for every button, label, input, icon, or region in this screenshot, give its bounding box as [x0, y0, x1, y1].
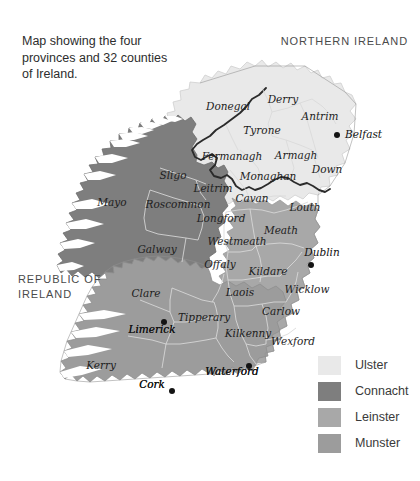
county-label: Meath [263, 224, 298, 236]
county-label: Carlow [262, 305, 300, 317]
county-label: Derry [267, 93, 300, 105]
map-caption: Map showing the four provinces and 32 co… [22, 33, 172, 83]
city-label: Limerick [127, 323, 175, 335]
legend-label: Leinster [355, 410, 399, 424]
province-legend: UlsterConnachtLeinsterMunster [318, 352, 409, 456]
legend-label: Ulster [355, 358, 388, 372]
county-label: Sligo [160, 169, 187, 181]
county-label: Roscommon [145, 198, 211, 210]
county-label: Armagh [274, 149, 317, 161]
county-label: Fermanagh [201, 150, 263, 162]
county-label: Monaghan [239, 170, 297, 182]
county-label: Galway [137, 243, 177, 255]
county-label: Tipperary [178, 311, 231, 323]
republic-title-line1: REPUBLIC OF [18, 272, 101, 287]
city-label: Cork [139, 378, 165, 390]
city-label: Dublin [303, 246, 340, 258]
county-label: Laois [225, 286, 255, 298]
legend-item: Ulster [318, 352, 409, 378]
legend-label: Connacht [355, 384, 409, 398]
county-label: Kerry [85, 359, 117, 371]
legend-swatch [318, 434, 341, 453]
county-label: Wicklow [285, 283, 330, 295]
legend-swatch [318, 356, 341, 375]
county-label: Offaly [204, 258, 237, 270]
county-label: Louth [288, 201, 320, 213]
county-label: Kildare [248, 265, 288, 277]
northern-ireland-title: NORTHERN IRELAND [281, 34, 408, 49]
county-label: Antrim [301, 110, 339, 122]
county-label: Wexford [271, 335, 315, 347]
ireland-provinces-map: DonegalDerryTyroneAntrimFermanaghArmaghD… [0, 0, 420, 481]
county-label: Donegal [205, 100, 250, 112]
republic-title-line2: IRELAND [18, 287, 101, 302]
legend-label: Munster [355, 436, 400, 450]
city-label: Waterford [205, 365, 259, 377]
legend-swatch [318, 408, 341, 427]
city-dot [308, 262, 314, 268]
city-dot [334, 132, 340, 138]
county-label: Kilkenny [224, 327, 273, 339]
county-label: Tyrone [243, 124, 280, 136]
republic-of-ireland-title: REPUBLIC OF IRELAND [18, 272, 101, 302]
county-label: Down [311, 163, 343, 175]
city-label: Belfast [344, 128, 383, 140]
legend-item: Leinster [318, 404, 409, 430]
county-label: Cavan [235, 192, 268, 204]
county-label: Leitrim [192, 182, 232, 194]
county-label: Westmeath [207, 235, 266, 247]
county-label: Mayo [96, 196, 126, 208]
legend-item: Connacht [318, 378, 409, 404]
legend-swatch [318, 382, 341, 401]
county-label: Clare [132, 287, 161, 299]
legend-item: Munster [318, 430, 409, 456]
county-label: Longford [196, 212, 246, 224]
city-dot [169, 388, 175, 394]
